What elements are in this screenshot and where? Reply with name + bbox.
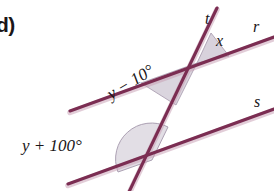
line-s	[68, 109, 274, 184]
part-label: d)	[0, 14, 15, 35]
angle-label-y-plus-100: y + 100°	[22, 137, 82, 154]
line-label-t: t	[205, 11, 209, 27]
line-label-s: s	[254, 94, 260, 110]
angle-label-x: x	[216, 33, 223, 49]
geometry-figure-canvas: d) t r s x y − 10° y + 100°	[0, 0, 274, 191]
line-label-r: r	[253, 19, 259, 35]
line-t	[128, 8, 217, 191]
geometry-diagram-svg	[0, 0, 274, 191]
